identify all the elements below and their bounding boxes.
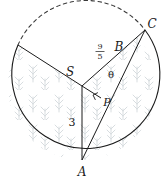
length-label-sb-fraction: 9 5 (96, 42, 105, 61)
angle-label-theta: θ (108, 69, 114, 80)
shaded-sectors (6, 30, 163, 162)
circle-dashed-arc (18, 0, 145, 45)
geometry-canvas: S A B C P 3 θ 9 5 (0, 0, 163, 179)
point-label-s: S (66, 65, 74, 79)
fraction-denominator: 5 (97, 52, 102, 61)
geometry-diagram: S A B C P 3 θ 9 5 (0, 0, 163, 179)
fraction-numerator: 9 (97, 42, 102, 51)
length-label-radius: 3 (69, 116, 76, 129)
point-label-p: P (102, 96, 111, 109)
point-label-a: A (77, 165, 87, 179)
point-label-b: B (114, 40, 124, 54)
point-label-c: C (147, 17, 156, 31)
